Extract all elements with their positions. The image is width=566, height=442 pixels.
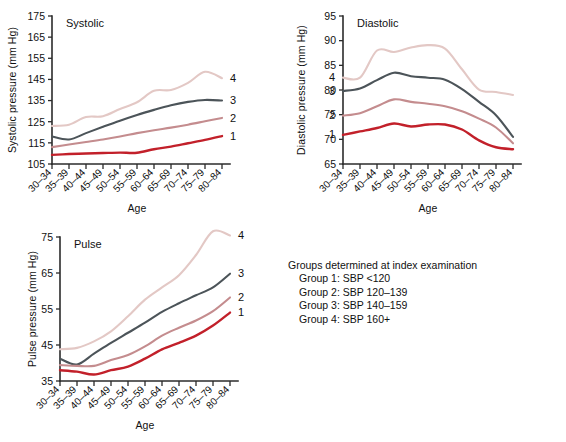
series-label-group1: 1 [230,130,236,142]
y-tick-label: 135 [27,94,45,106]
series-label-group2: 2 [329,109,335,121]
diastolic-plot: 6570758085909530–3435–3940–4445–4950–545… [283,0,566,221]
series-label-group2: 2 [238,291,244,303]
series-label-group3: 3 [238,267,244,279]
diastolic-panel-title: Diastolic [357,17,399,29]
y-tick-label: 155 [27,52,45,64]
series-label-group3: 3 [230,94,236,106]
groups-legend: Groups determined at index examination G… [288,259,477,326]
legend-item-group2: Group 2: SBP 120–139 [288,286,477,299]
series-label-group3: 3 [329,85,335,97]
series-label-group4: 4 [230,72,236,84]
y-tick-label: 45 [41,339,53,351]
diastolic-x-axis-title: Age [419,202,438,214]
diastolic-y-axis-title: Diastolic pressure (mm Hg) [295,25,307,155]
y-tick-label: 75 [41,231,53,243]
page-bleed-text [0,430,566,442]
y-tick-label: 165 [27,31,45,43]
series-line-group1 [52,136,222,155]
pulse-plot: 354555657530–3435–3940–4445–4950–5455–59… [22,221,283,442]
systolic-plot: 10511512513514515516517530–3435–3940–444… [0,0,283,221]
legend-item-group4: Group 4: SBP 160+ [288,313,477,326]
series-line-group3 [60,274,230,365]
legend-item-group3: Group 3: SBP 140–159 [288,299,477,312]
pulse-panel-title: Pulse [74,238,102,250]
y-tick-label: 85 [324,59,336,71]
y-tick-label: 55 [41,303,53,315]
systolic-x-axis-title: Age [128,202,147,214]
series-label-group1: 1 [238,306,244,318]
y-tick-label: 105 [27,158,45,170]
y-tick-label: 125 [27,116,45,128]
series-line-group2 [343,99,513,143]
y-tick-label: 65 [41,267,53,279]
diastolic-chart-panel: 6570758085909530–3435–3940–4445–4950–545… [283,0,566,221]
series-label-group4: 4 [329,71,335,83]
y-tick-label: 95 [324,10,336,22]
y-tick-label: 90 [324,34,336,46]
series-label-group1: 1 [329,128,335,140]
systolic-chart-panel: 10511512513514515516517530–3435–3940–444… [0,0,283,221]
y-tick-label: 115 [28,137,45,149]
y-tick-label: 175 [27,10,45,22]
series-line-group4 [343,45,513,95]
pulse-chart-panel: 354555657530–3435–3940–4445–4950–5455–59… [22,221,283,442]
series-line-group4 [52,72,222,126]
series-label-group4: 4 [238,229,244,241]
pulse-y-axis-title: Pulse pressure (mm Hg) [26,251,38,367]
series-line-group1 [343,124,513,150]
series-label-group2: 2 [230,112,236,124]
legend-item-group1: Group 1: SBP <120 [288,272,477,285]
legend-header: Groups determined at index examination [288,259,477,272]
y-tick-label: 145 [27,73,45,85]
systolic-y-axis-title: Systolic pressure (mm Hg) [6,27,18,153]
systolic-panel-title: Systolic [66,17,104,29]
